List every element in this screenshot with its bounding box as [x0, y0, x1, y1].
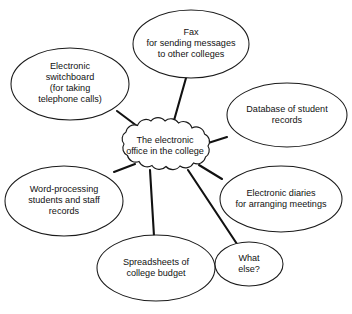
word-processing-label-line3: records — [49, 206, 80, 216]
spider-diagram-canvas: Electronic switchboard (for taking telep… — [0, 0, 352, 314]
word-processing-label-line2: students and staff — [28, 195, 100, 205]
word-processing-label: Word-processing — [30, 184, 99, 194]
fax-label-line3: to other colleges — [158, 49, 225, 59]
electronic-diaries-label: Electronic diaries — [246, 188, 316, 198]
connector-switchboard-to-center — [117, 111, 137, 126]
electronic-diaries-label-line2: for arranging meetings — [236, 199, 327, 209]
what-else-label-line2: else? — [238, 264, 260, 274]
what-else-label: What — [238, 253, 260, 263]
node-spreadsheets[interactable]: Spreadsheets of college budget — [97, 235, 215, 301]
node-word-processing[interactable]: Word-processing students and staff recor… — [5, 166, 123, 236]
node-fax[interactable]: Fax for sending messages to other colleg… — [133, 10, 249, 78]
fax-label: Fax — [183, 27, 199, 37]
node-center-cloud[interactable]: The electronic office in the college — [122, 118, 209, 170]
spreadsheets-label: Spreadsheets of — [123, 257, 190, 267]
node-what-else[interactable]: What else? — [215, 242, 283, 286]
node-electronic-diaries[interactable]: Electronic diaries for arranging meeting… — [220, 166, 342, 232]
fax-label-line2: for sending messages — [147, 38, 236, 48]
database-of-student-records-label: Database of student — [246, 104, 328, 114]
electronic-switchboard-label-line4: telephone calls) — [38, 94, 102, 104]
connector-fax-to-center — [173, 78, 186, 124]
node-database-of-student-records[interactable]: Database of student records — [227, 83, 347, 147]
center-cloud-label-line2: office in the college — [126, 146, 204, 156]
spreadsheets-label-line2: college budget — [126, 268, 186, 278]
connector-spreadsheets-to-center — [150, 170, 154, 236]
electronic-switchboard-label-line2: switchboard — [46, 72, 95, 82]
electronic-switchboard-label-line3: (for taking — [50, 83, 90, 93]
spider-diagram: Electronic switchboard (for taking telep… — [0, 0, 352, 314]
database-of-student-records-label-line2: records — [272, 115, 303, 125]
electronic-switchboard-label: Electronic — [50, 61, 90, 71]
connector-word-processing-to-center — [114, 164, 135, 172]
node-electronic-switchboard[interactable]: Electronic switchboard (for taking telep… — [11, 48, 129, 120]
center-cloud-label: The electronic — [136, 135, 194, 145]
connector-diaries-to-center — [199, 165, 222, 179]
